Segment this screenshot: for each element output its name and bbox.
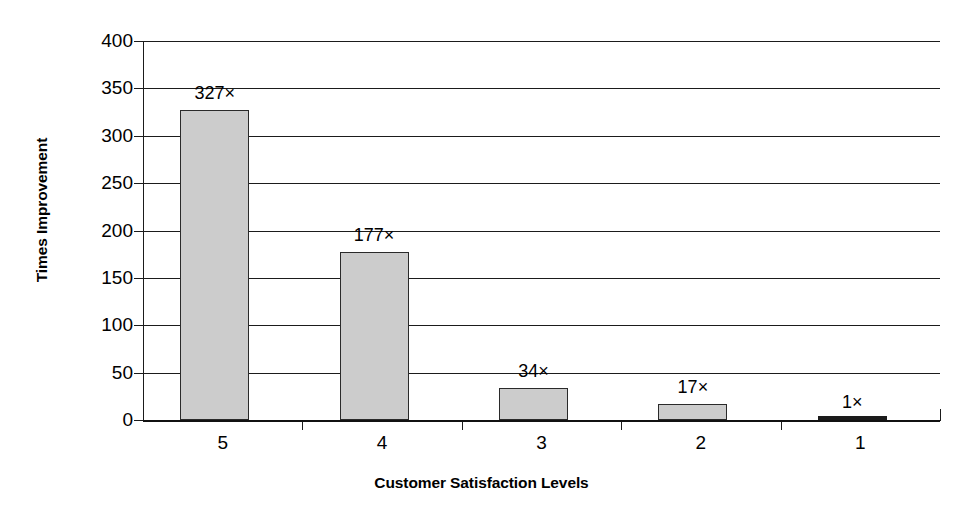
gridline <box>143 136 940 137</box>
y-axis-tick <box>134 325 143 326</box>
y-axis-tick <box>134 231 143 232</box>
bar-value-label: 17× <box>628 378 757 396</box>
x-axis-tick-label: 4 <box>302 432 461 454</box>
x-axis-tick-label: 3 <box>462 432 621 454</box>
y-axis-tick-label: 150 <box>81 268 133 287</box>
x-axis-tick-label: 5 <box>143 432 302 454</box>
bar <box>180 110 249 420</box>
y-axis-tick-labels: 400350300250200150100500 <box>78 0 133 506</box>
y-axis-tick <box>134 41 143 42</box>
y-axis-tick <box>134 136 143 137</box>
gridline <box>143 325 940 326</box>
bar-chart: Times Improvement 4003503002502001501005… <box>0 0 963 506</box>
y-axis-tick-label: 200 <box>81 221 133 240</box>
y-axis-tick-label: 100 <box>81 315 133 334</box>
y-axis-tick-label: 350 <box>81 78 133 97</box>
y-axis-tick-label: 250 <box>81 173 133 192</box>
x-axis-tick-label: 1 <box>781 432 940 454</box>
bar <box>340 252 409 420</box>
y-axis-tick <box>134 420 143 421</box>
x-axis-title: Customer Satisfaction Levels <box>0 474 963 492</box>
x-axis-right-end-tick <box>940 409 941 421</box>
x-axis-tick-label: 2 <box>621 432 780 454</box>
bar <box>499 388 568 420</box>
y-axis-title: Times Improvement <box>22 0 62 420</box>
y-axis-tick <box>134 88 143 89</box>
y-axis-tick-label: 0 <box>81 410 133 429</box>
bar-value-label: 1× <box>788 393 917 411</box>
y-axis-tick <box>134 183 143 184</box>
y-axis-tick-label: 400 <box>81 31 133 50</box>
gridline <box>143 231 940 232</box>
x-axis-line <box>143 420 940 422</box>
y-axis-tick <box>134 373 143 374</box>
gridline <box>143 183 940 184</box>
gridline <box>143 278 940 279</box>
bar-value-label: 177× <box>310 226 439 244</box>
bar-value-label: 34× <box>469 362 598 380</box>
y-axis-tick <box>134 278 143 279</box>
bar-value-label: 327× <box>150 84 279 102</box>
gridline <box>143 41 940 42</box>
x-axis-tick-labels: 54321 <box>143 432 940 460</box>
bar <box>658 404 727 420</box>
y-axis-tick-label: 300 <box>81 126 133 145</box>
y-axis-tick-label: 50 <box>81 363 133 382</box>
plot-area: 327×177×34×17×1× <box>143 41 940 420</box>
